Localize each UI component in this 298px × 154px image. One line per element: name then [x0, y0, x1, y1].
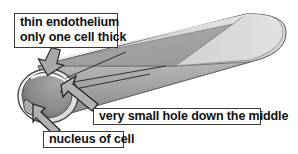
figure-canvas: thin endothelium only one cell thick ver… [0, 0, 298, 154]
callout-endothelium-line2: only one cell thick [20, 30, 113, 45]
callout-thin-endothelium: thin endothelium only one cell thick [14, 13, 118, 48]
callout-small-hole: very small hole down the middle [93, 108, 261, 125]
callout-nucleus-of-cell: nucleus of cell [43, 131, 124, 148]
callout-endothelium-line1: thin endothelium [20, 15, 113, 30]
